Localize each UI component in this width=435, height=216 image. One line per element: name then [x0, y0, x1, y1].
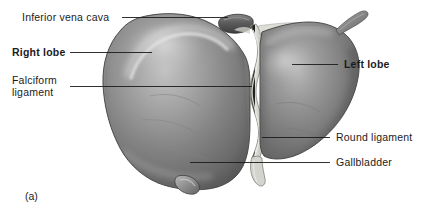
left-lobe-shape: [250, 11, 370, 170]
label-inferior-vena-cava: Inferior vena cava: [22, 11, 109, 23]
label-falciform-ligament-line2: ligament: [12, 86, 53, 98]
panel-letter: (a): [25, 190, 38, 202]
label-right-lobe: Right lobe: [12, 46, 65, 58]
label-falciform-ligament-line1: Falciform: [12, 74, 57, 86]
right-lobe-shape: [96, 14, 256, 200]
label-round-ligament: Round ligament: [336, 131, 413, 143]
label-gallbladder: Gallbladder: [336, 156, 392, 168]
round-ligament-shape: [251, 156, 266, 186]
label-left-lobe: Left lobe: [344, 58, 390, 70]
liver-illustration: [0, 0, 435, 216]
liver-anatomy-figure: Inferior vena cava Right lobe Falciform …: [0, 0, 435, 216]
